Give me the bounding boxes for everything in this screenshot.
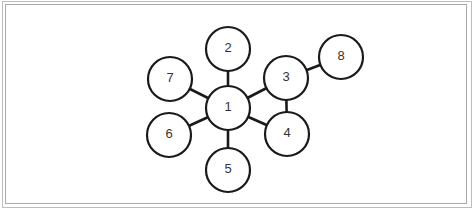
- node-label: 7: [166, 70, 173, 85]
- node-3: 3: [264, 56, 308, 100]
- node-label: 1: [224, 99, 231, 114]
- node-4: 4: [265, 112, 309, 156]
- node-6: 6: [147, 113, 191, 157]
- node-label: 3: [282, 69, 289, 84]
- node-label: 8: [337, 48, 344, 63]
- node-2: 2: [206, 27, 250, 71]
- graph-diagram: 12345678: [0, 0, 475, 210]
- node-label: 6: [165, 126, 172, 141]
- node-7: 7: [148, 57, 192, 101]
- edges-layer: [169, 49, 341, 170]
- node-1: 1: [206, 86, 250, 130]
- node-label: 5: [224, 161, 231, 176]
- node-label: 2: [224, 40, 231, 55]
- node-label: 4: [283, 125, 290, 140]
- nodes-layer: 12345678: [147, 27, 363, 192]
- node-8: 8: [319, 35, 363, 79]
- node-5: 5: [206, 148, 250, 192]
